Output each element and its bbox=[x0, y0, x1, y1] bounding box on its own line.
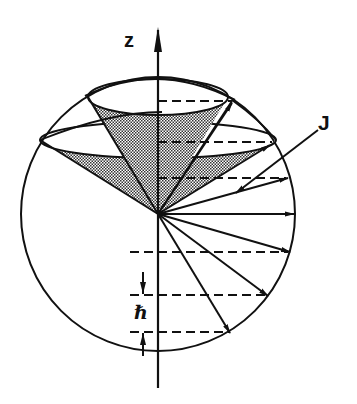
vector-arrow bbox=[158, 214, 268, 296]
top-latitude-arc bbox=[85, 79, 235, 100]
angular-momentum-vector-diagram: z J ℏ bbox=[0, 0, 357, 404]
hbar-label: ℏ bbox=[134, 303, 148, 322]
upper-cone bbox=[88, 79, 232, 214]
j-label: J bbox=[318, 112, 330, 133]
diagram-canvas bbox=[0, 0, 357, 404]
z-axis-label: z bbox=[124, 30, 134, 50]
j-pointer-line bbox=[236, 130, 318, 193]
z-axis-arrowhead bbox=[154, 27, 162, 52]
